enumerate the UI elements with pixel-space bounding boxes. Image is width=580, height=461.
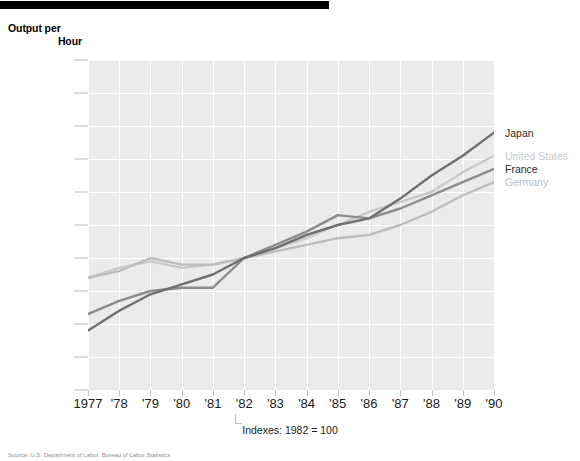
y-tick-mark bbox=[74, 126, 88, 127]
x-tick-label: '86 bbox=[361, 396, 378, 411]
y-tick-mark bbox=[74, 390, 88, 391]
x-tick-label: '80 bbox=[173, 396, 190, 411]
y-tick-mark bbox=[74, 258, 88, 259]
x-tick-label: '82 bbox=[236, 396, 253, 411]
x-tick-label: '84 bbox=[298, 396, 315, 411]
y-tick-mark bbox=[74, 357, 88, 358]
legend-label-germany: Germany bbox=[505, 176, 548, 188]
y-tick-mark bbox=[74, 60, 88, 61]
x-tick-label: '87 bbox=[392, 396, 409, 411]
x-tick-label: '85 bbox=[329, 396, 346, 411]
x-tick-label: 1977 bbox=[74, 396, 103, 411]
header-rule bbox=[0, 1, 329, 9]
y-tick-mark bbox=[74, 159, 88, 160]
source-note: Source: U.S. Department of Labor, Bureau… bbox=[8, 452, 568, 461]
y-axis-title-line1: Output per bbox=[8, 22, 61, 34]
series-line-germany bbox=[88, 182, 494, 278]
y-tick-mark bbox=[74, 291, 88, 292]
y-tick-mark bbox=[74, 93, 88, 94]
x-tick-label: '81 bbox=[204, 396, 221, 411]
gridline-vertical bbox=[494, 60, 495, 390]
chart-plot-area bbox=[88, 60, 494, 390]
legend-label-japan: Japan bbox=[505, 127, 534, 139]
legend-label-france: France bbox=[505, 163, 538, 175]
gridline-horizontal bbox=[88, 390, 494, 391]
index-note-stem-foot bbox=[235, 423, 242, 424]
legend-label-united-states: United States bbox=[505, 150, 568, 162]
y-axis-title: Output per Hour bbox=[8, 22, 82, 47]
x-tick-label: '78 bbox=[111, 396, 128, 411]
x-tick-label: '89 bbox=[454, 396, 471, 411]
x-tick-label: '88 bbox=[423, 396, 440, 411]
y-tick-mark bbox=[74, 324, 88, 325]
y-axis-title-line2: Hour bbox=[8, 35, 82, 48]
series-line-japan bbox=[88, 133, 494, 331]
x-tick-label: '83 bbox=[267, 396, 284, 411]
x-tick-label: '79 bbox=[142, 396, 159, 411]
x-tick-label: '90 bbox=[486, 396, 503, 411]
y-tick-mark bbox=[74, 225, 88, 226]
series-layer bbox=[88, 60, 494, 390]
index-note: Indexes: 1982 = 100 bbox=[242, 424, 337, 436]
y-tick-mark bbox=[74, 192, 88, 193]
